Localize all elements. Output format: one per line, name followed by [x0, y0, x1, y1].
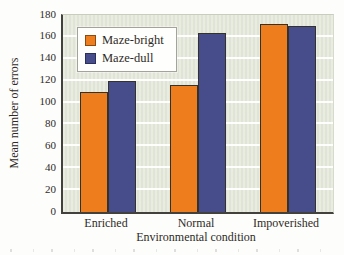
y-tick-label-160: 160 [6, 29, 56, 42]
x-tick-label-enriched: Enriched [84, 216, 127, 231]
y-tick-label-140: 140 [6, 51, 56, 64]
bar-maze-dull-enriched [108, 81, 136, 212]
x-tick-label-impoverished: Impoverished [253, 216, 319, 231]
bar-group-impoverished [260, 24, 316, 212]
bar-maze-dull-impoverished [288, 26, 316, 212]
maze-bright-swatch-icon [85, 35, 96, 46]
legend-label-maze-dull: Maze-dull [102, 51, 153, 66]
y-tick-label-60: 60 [6, 139, 56, 152]
y-tick-label-0: 0 [6, 205, 56, 218]
y-tick-label-120: 120 [6, 73, 56, 86]
x-tick-cell-normal: Normal [168, 216, 224, 231]
bar-maze-dull-normal [198, 33, 226, 212]
y-tick-label-40: 40 [6, 161, 56, 174]
y-tick-label-100: 100 [6, 95, 56, 108]
bar-maze-bright-enriched [80, 92, 108, 212]
bar-group-normal [170, 33, 226, 212]
legend-item-maze-dull: Maze-dull [85, 51, 164, 66]
bar-maze-bright-normal [170, 85, 198, 212]
bar-chart-figure: Mean number of errors 020406080100120140… [0, 0, 344, 255]
x-tick-label-normal: Normal [178, 216, 215, 231]
cropped-caption-fragment [10, 249, 336, 252]
bar-maze-bright-impoverished [260, 24, 288, 212]
maze-dull-swatch-icon [85, 53, 96, 64]
x-tick-cell-impoverished: Impoverished [258, 216, 314, 231]
legend-item-maze-bright: Maze-bright [85, 33, 164, 48]
y-tick-label-180: 180 [6, 8, 56, 21]
y-tick-label-20: 20 [6, 183, 56, 196]
x-axis-ticks: EnrichedNormalImpoverished [61, 216, 331, 231]
x-axis-title: Environmental condition [136, 230, 256, 245]
legend: Maze-bright Maze-dull [77, 27, 177, 72]
legend-label-maze-bright: Maze-bright [102, 33, 164, 48]
x-tick-cell-enriched: Enriched [78, 216, 134, 231]
bar-group-enriched [80, 81, 136, 212]
y-tick-label-80: 80 [6, 117, 56, 130]
